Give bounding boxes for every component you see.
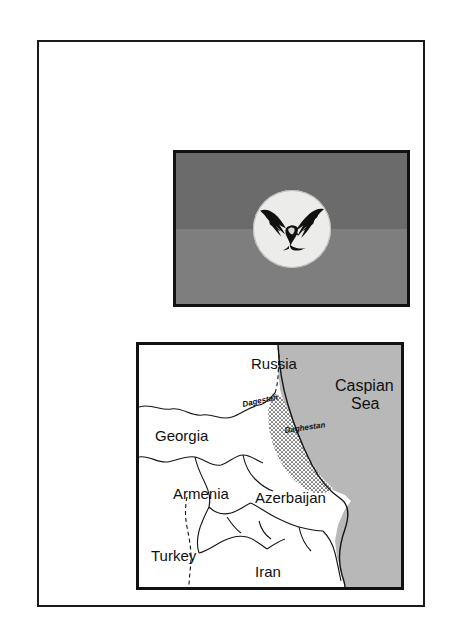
country-label-iran: Iran xyxy=(255,563,281,580)
document-page: Caspian Sea Russia Georgia Armenia Azerb… xyxy=(0,0,457,642)
eagle-emblem xyxy=(253,190,331,268)
flag-image xyxy=(173,150,410,307)
country-label-turkey: Turkey xyxy=(151,547,197,564)
country-label-azerbaijan: Azerbaijan xyxy=(255,489,326,506)
sea-label-caspian: Caspian xyxy=(335,377,394,394)
country-label-russia: Russia xyxy=(251,355,298,372)
eagle-icon xyxy=(260,208,324,250)
country-label-armenia: Armenia xyxy=(173,485,230,502)
country-label-georgia: Georgia xyxy=(155,427,209,444)
region-map: Caspian Sea Russia Georgia Armenia Azerb… xyxy=(136,342,404,590)
document-frame: Caspian Sea Russia Georgia Armenia Azerb… xyxy=(37,40,425,607)
sea-label-sea: Sea xyxy=(351,395,380,412)
